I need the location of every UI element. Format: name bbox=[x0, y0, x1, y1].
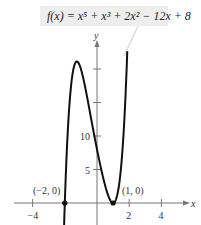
y-tick-label: 5 bbox=[85, 165, 90, 176]
x-tick-label: 4 bbox=[158, 210, 163, 221]
y-tick-label: 10 bbox=[80, 131, 90, 142]
y-axis-label: y bbox=[93, 30, 99, 41]
plot-area: xy−424510 (−2, 0)(1, 0) bbox=[0, 0, 201, 225]
zero-point-label: (−2, 0) bbox=[33, 185, 60, 197]
zero-point-label: (1, 0) bbox=[122, 185, 144, 197]
y-axis-arrow bbox=[95, 40, 100, 47]
zero-point-marker bbox=[62, 200, 67, 205]
x-tick-label: 2 bbox=[126, 210, 131, 221]
callout-pointer bbox=[124, 26, 138, 56]
x-tick-label: −4 bbox=[28, 210, 39, 221]
zero-point-marker bbox=[111, 200, 116, 205]
x-axis-label: x bbox=[190, 198, 196, 209]
function-curve bbox=[64, 51, 128, 225]
x-axis-arrow bbox=[183, 201, 190, 206]
